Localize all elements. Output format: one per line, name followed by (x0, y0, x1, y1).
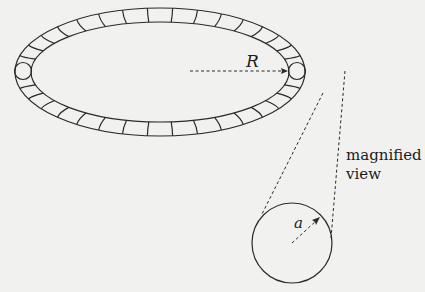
torus-inner-edge (31, 22, 289, 122)
winding-segment (99, 117, 106, 130)
winding-segment (123, 120, 127, 134)
winding-segment (41, 101, 54, 109)
winding-segment (234, 20, 243, 31)
winding-segment (77, 113, 86, 124)
winding-segment (147, 8, 148, 22)
winding-segment (285, 55, 301, 59)
winding-segment (193, 120, 197, 134)
left-cross-section (15, 63, 32, 80)
winding-segment (29, 93, 43, 99)
winding-segment (171, 8, 172, 22)
minor-radius-label: a (294, 214, 303, 232)
winding-segment (20, 85, 36, 89)
winding-segment (171, 122, 172, 136)
winding-segment (234, 113, 243, 124)
winding-segment (266, 35, 279, 43)
winding-segment (277, 93, 292, 99)
magnified-label-line2: view (346, 165, 422, 184)
winding-segment (77, 20, 86, 31)
winding-segment (215, 117, 222, 130)
major-radius-label: R (246, 51, 259, 71)
winding-segment (147, 122, 148, 136)
winding-segment (123, 10, 127, 24)
winding-segment (277, 45, 292, 51)
winding-segment (99, 14, 106, 27)
winding-segment (266, 101, 279, 109)
winding-segment (20, 55, 36, 59)
winding-segment (251, 107, 262, 117)
projection-line-right (331, 71, 345, 238)
winding-segment (215, 14, 222, 27)
right-cross-section (289, 63, 306, 80)
winding-segment (193, 10, 197, 24)
winding-segment (29, 45, 43, 51)
winding-segment (58, 27, 69, 37)
winding-segment (251, 27, 262, 37)
magnified-view-label: magnified view (346, 146, 422, 184)
projection-line-left (262, 93, 323, 214)
torus-windings (20, 8, 300, 136)
magnified-label-line1: magnified (346, 146, 422, 165)
winding-segment (58, 107, 69, 117)
winding-segment (41, 35, 54, 43)
winding-segment (285, 85, 301, 89)
torus-outer-edge (15, 8, 305, 136)
major-radius-arrowhead (281, 68, 288, 74)
